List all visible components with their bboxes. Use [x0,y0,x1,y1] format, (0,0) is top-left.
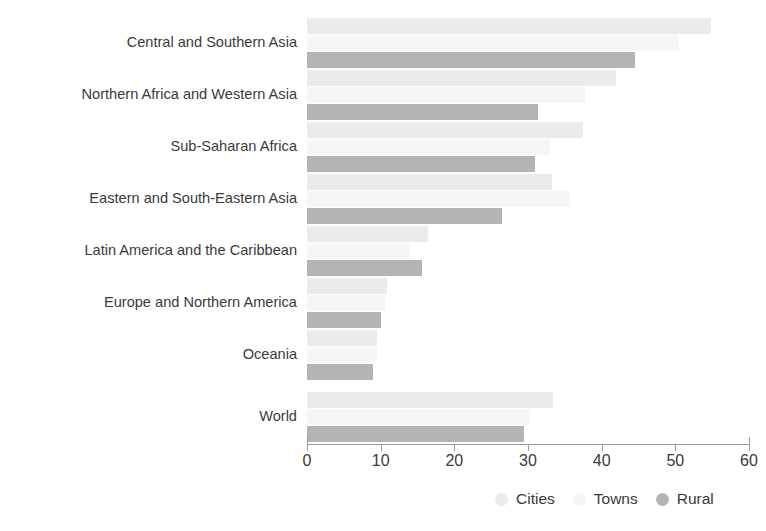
bar-towns[interactable] [307,87,585,103]
bar-cities[interactable] [307,226,428,242]
bar-group [307,392,749,442]
bar-rural[interactable] [307,156,535,172]
bar-rural[interactable] [307,104,538,120]
category-label: Northern Africa and Western Asia [82,87,298,102]
x-tick-label: 40 [593,453,611,469]
bar-group [307,330,749,380]
bar-rural[interactable] [307,426,524,442]
bar-group [307,226,749,276]
bar-cities[interactable] [307,174,552,190]
category-label: World [259,409,297,424]
bar-towns[interactable] [307,409,530,425]
bar-rural[interactable] [307,208,502,224]
bar-group [307,122,749,172]
circle-marker-rural-icon [656,493,669,506]
bar-towns[interactable] [307,243,410,259]
bar-cities[interactable] [307,278,387,294]
bar-cities[interactable] [307,18,711,34]
circle-marker-towns-icon [573,493,586,506]
x-tick-label: 10 [372,453,390,469]
category-label: Europe and Northern America [104,295,297,310]
bar-rural[interactable] [307,260,422,276]
x-tick-label: 30 [519,453,537,469]
bar-rural[interactable] [307,364,373,380]
bar-towns[interactable] [307,191,570,207]
plot-area [307,14,749,440]
x-tick-label: 20 [445,453,463,469]
category-label: Sub-Saharan Africa [170,139,297,154]
legend-label-rural: Rural [677,490,714,508]
bar-towns[interactable] [307,347,377,363]
category-label: Eastern and South-Eastern Asia [89,191,297,206]
x-tick [602,444,603,451]
category-label: Latin America and the Caribbean [84,243,297,258]
bar-group [307,70,749,120]
x-tick [749,444,750,451]
bar-towns[interactable] [307,35,679,51]
x-tick-label: 0 [303,453,312,469]
bar-rural[interactable] [307,312,381,328]
bar-towns[interactable] [307,139,550,155]
bar-group [307,278,749,328]
x-tick [307,444,308,451]
bar-cities[interactable] [307,392,553,408]
legend-label-towns: Towns [594,490,638,508]
category-label: Oceania [243,347,297,362]
legend-item-towns[interactable]: Towns [573,490,638,508]
bar-towns[interactable] [307,295,385,311]
bar-cities[interactable] [307,122,583,138]
grouped-bar-chart: Central and Southern AsiaNorthern Africa… [0,0,766,531]
clipped-chart-title [300,0,680,6]
category-label: Central and Southern Asia [127,35,297,50]
x-tick [528,444,529,451]
x-tick [381,444,382,451]
bar-group [307,174,749,224]
bar-cities[interactable] [307,70,616,86]
bar-group [307,18,749,68]
bar-cities[interactable] [307,330,377,346]
chart-legend: Cities Towns Rural [495,487,714,511]
category-axis-labels: Central and Southern AsiaNorthern Africa… [0,14,297,440]
x-tick [454,444,455,451]
circle-marker-cities-icon [495,493,508,506]
x-tick-label: 60 [740,453,758,469]
legend-label-cities: Cities [516,490,555,508]
bar-rural[interactable] [307,52,635,68]
x-tick-label: 50 [666,453,684,469]
legend-item-rural[interactable]: Rural [656,490,714,508]
legend-item-cities[interactable]: Cities [495,490,555,508]
x-tick [675,444,676,451]
